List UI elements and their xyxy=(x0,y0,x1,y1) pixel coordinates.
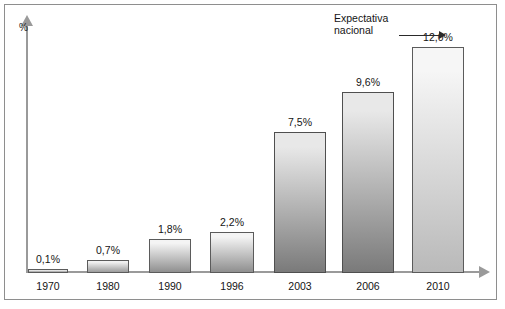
bar-group: 9,6% xyxy=(342,24,394,273)
annotation-leader-line xyxy=(399,35,440,36)
bar-1970 xyxy=(28,269,68,273)
bar-2010 xyxy=(412,47,464,273)
bar-value-label-1990: 1,8% xyxy=(149,223,191,235)
bar-2003 xyxy=(274,132,326,273)
bar-group: 0,7% xyxy=(87,24,129,273)
bar-group: 12,0% xyxy=(412,24,464,273)
bar-group: 0,1% xyxy=(28,24,68,273)
bar-1990 xyxy=(149,239,191,273)
x-tick-1990: 1990 xyxy=(146,280,194,292)
x-tick-2010: 2010 xyxy=(414,280,462,292)
bar-2006 xyxy=(342,92,394,273)
bar-1980 xyxy=(87,260,129,273)
bar-1996 xyxy=(210,232,254,274)
bar-value-label-1980: 0,7% xyxy=(87,244,129,256)
x-tick-1996: 1996 xyxy=(208,280,256,292)
annotation-line-1: Expectativa xyxy=(334,12,388,24)
annotation-expectativa: Expectativa nacional xyxy=(334,12,388,36)
bar-value-label-2010: 12,0% xyxy=(412,31,464,43)
annotation-arrow-icon xyxy=(439,31,446,39)
x-tick-2003: 2003 xyxy=(276,280,324,292)
plot-area: 0,1%0,7%1,8%2,2%7,5%9,6%12,0% xyxy=(26,24,481,273)
bar-group: 1,8% xyxy=(149,24,191,273)
x-tick-2006: 2006 xyxy=(344,280,392,292)
bar-value-label-1996: 2,2% xyxy=(210,216,254,228)
annotation-line-2: nacional xyxy=(334,24,388,36)
x-tick-1970: 1970 xyxy=(24,280,72,292)
bar-value-label-1970: 0,1% xyxy=(28,253,68,265)
x-tick-1980: 1980 xyxy=(84,280,132,292)
bar-group: 2,2% xyxy=(210,24,254,273)
bar-value-label-2003: 7,5% xyxy=(274,116,326,128)
chart-container: % 0,1%0,7%1,8%2,2%7,5%9,6%12,0% 19701980… xyxy=(0,0,505,309)
bar-value-label-2006: 9,6% xyxy=(342,76,394,88)
bar-group: 7,5% xyxy=(274,24,326,273)
